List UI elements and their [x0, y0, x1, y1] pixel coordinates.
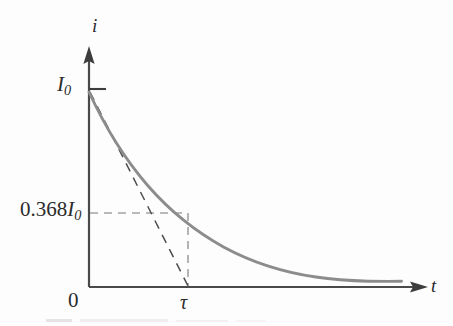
- exponential-decay-curve: [89, 92, 272, 294]
- initial-current-subscript: 0: [64, 82, 71, 98]
- origin-label: 0: [68, 290, 79, 311]
- y-axis-label: i: [92, 16, 97, 35]
- time-constant-label: τ: [180, 292, 187, 312]
- scan-artifact: [236, 320, 266, 322]
- scan-artifact: [176, 320, 228, 322]
- exponential-decay-curve-render: [89, 92, 402, 281]
- initial-current-label: I0: [57, 74, 71, 97]
- decayed-current-coefficient: 0.368: [20, 197, 67, 221]
- decayed-current-subscript: 0: [74, 207, 81, 223]
- initial-current-symbol: I: [57, 72, 64, 96]
- exponential-decay-figure: [0, 0, 453, 326]
- x-axis-label: t: [431, 276, 436, 295]
- scan-artifact: [46, 319, 72, 322]
- decayed-current-label: 0.368I0: [20, 199, 81, 222]
- scan-artifact: [80, 319, 168, 322]
